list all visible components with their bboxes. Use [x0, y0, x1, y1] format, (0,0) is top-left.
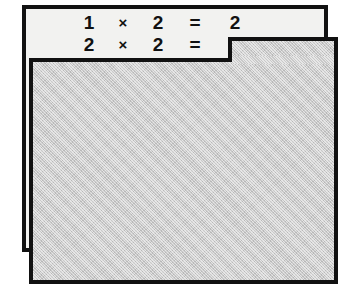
answer-cover-panel[interactable] — [29, 37, 338, 284]
operand-b: 2 — [144, 13, 172, 32]
cover-panel-body — [29, 58, 338, 284]
operand-a: 1 — [76, 13, 102, 32]
answer-value: 2 — [218, 13, 252, 32]
equals-sign-icon: = — [172, 13, 218, 32]
multiplication-sign-icon: × — [102, 15, 144, 30]
cover-panel-seam — [232, 56, 334, 64]
problem-row: 1 × 2 = 2 — [26, 11, 324, 33]
worksheet-stage: 1 × 2 = 2 2 × 2 = — [0, 0, 343, 299]
